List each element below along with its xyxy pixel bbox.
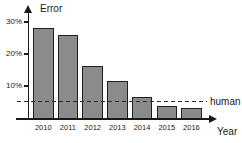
bar-2011 bbox=[58, 35, 79, 118]
bar-2010 bbox=[33, 28, 54, 118]
bar-2012 bbox=[82, 66, 103, 118]
y-tick-label: 10% bbox=[1, 82, 22, 90]
y-axis-arrow-icon bbox=[24, 5, 32, 13]
y-tick-mark bbox=[24, 53, 29, 55]
bar-2015 bbox=[157, 106, 178, 118]
human-reference-label: human bbox=[210, 96, 241, 107]
bar-2014 bbox=[132, 97, 153, 118]
bar-2016 bbox=[181, 108, 202, 118]
x-axis-title: Year bbox=[217, 126, 237, 137]
y-axis-line bbox=[28, 10, 30, 120]
x-axis-line bbox=[16, 118, 210, 120]
x-axis-arrow-icon bbox=[209, 115, 217, 123]
y-tick-mark bbox=[24, 85, 29, 87]
human-reference-line bbox=[17, 101, 207, 103]
y-tick-mark bbox=[24, 21, 29, 23]
y-tick-label: 20% bbox=[1, 50, 22, 58]
bar-2013 bbox=[107, 81, 128, 118]
y-tick-label: 30% bbox=[1, 18, 22, 26]
error-rate-bar-chart: Error 10%20%30% 201020112012201320142015… bbox=[0, 0, 242, 143]
y-axis-title: Error bbox=[40, 3, 62, 14]
x-tick-label: 2016 bbox=[177, 123, 205, 132]
